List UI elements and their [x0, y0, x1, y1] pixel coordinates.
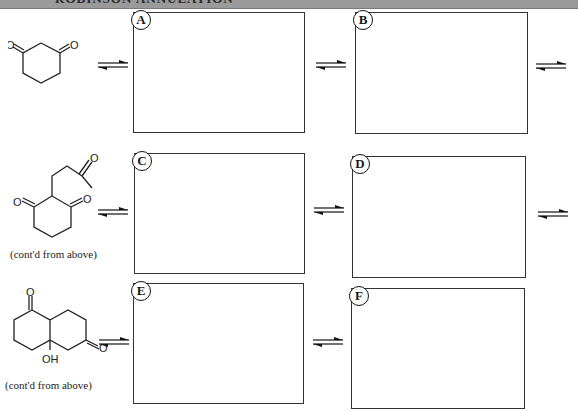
header-title: ROBINSON ANNULATION	[55, 0, 234, 7]
molecule-michael-adduct: O O O	[5, 152, 105, 247]
molecule-cyclohexanedione: O O	[8, 30, 88, 90]
answer-box-e[interactable]: E	[133, 283, 304, 404]
svg-text:O: O	[26, 288, 35, 298]
row2-caption: (cont'd from above)	[10, 248, 97, 260]
box-label-d: D	[350, 154, 370, 174]
box-label-b: B	[353, 10, 373, 30]
answer-box-d[interactable]: D	[352, 156, 526, 278]
header-bar: ROBINSON ANNULATION	[0, 0, 578, 9]
equilibrium-arrows-icon	[97, 206, 129, 218]
answer-box-c[interactable]: C	[134, 153, 305, 274]
box-label-c: C	[132, 151, 152, 171]
svg-text:O: O	[13, 196, 22, 208]
equilibrium-arrows-icon	[312, 336, 344, 348]
svg-text:OH: OH	[42, 353, 59, 365]
molecule-bicyclic-aldol: O O OH	[10, 288, 120, 368]
equilibrium-arrows-icon	[535, 60, 567, 72]
equilibrium-arrows-icon	[537, 208, 569, 220]
equilibrium-arrows-icon	[98, 336, 130, 348]
answer-box-f[interactable]: F	[351, 288, 525, 409]
box-label-f: F	[349, 286, 369, 306]
svg-text:O: O	[70, 39, 79, 51]
answer-box-a[interactable]: A	[133, 12, 305, 133]
answer-box-b[interactable]: B	[355, 12, 528, 134]
svg-text:O: O	[83, 193, 92, 205]
box-label-e: E	[131, 281, 151, 301]
equilibrium-arrows-icon	[97, 59, 129, 71]
equilibrium-arrows-icon	[313, 204, 345, 216]
row3-caption: (cont'd from above)	[5, 379, 92, 391]
equilibrium-arrows-icon	[315, 59, 347, 71]
svg-text:O: O	[90, 152, 99, 164]
box-label-a: A	[131, 10, 151, 30]
svg-text:O: O	[8, 39, 15, 51]
